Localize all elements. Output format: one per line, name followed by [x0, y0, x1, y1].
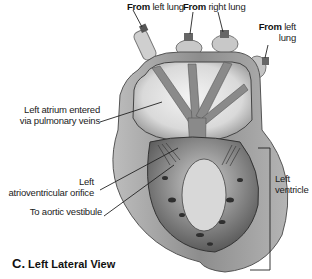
label-line1: Left: [79, 176, 94, 187]
label-from-left-lung-2: From left lung: [246, 21, 296, 43]
label-line1: Left: [275, 173, 290, 184]
panel-title: Left Lateral View: [28, 258, 115, 270]
label-from-right-lung: From right lung: [183, 1, 245, 12]
label-line1: To aortic vestibule: [30, 206, 102, 217]
label-line2: via pulmonary veins: [20, 115, 100, 126]
panel-letter: C.: [12, 256, 25, 271]
label-bold-from: From: [127, 1, 150, 12]
label-bold-from: From: [183, 1, 206, 12]
label-text: right lung: [206, 1, 246, 12]
label-aortic-vestibule: To aortic vestibule: [2, 206, 102, 217]
label-from-left-lung-1: From left lung: [127, 1, 184, 12]
label-line2: atrioventricular orifice: [9, 187, 94, 198]
label-left-atrium: Left atrium entered via pulmonary veins: [4, 104, 100, 126]
label-left-ventricle: Left ventricle: [275, 173, 309, 195]
figure-caption: C. Left Lateral View: [12, 256, 115, 271]
label-text: left lung: [150, 1, 184, 12]
label-line1: Left atrium entered: [24, 104, 100, 115]
label-line2: ventricle: [275, 184, 309, 195]
label-av-orifice: Left atrioventricular orifice: [0, 176, 94, 198]
label-text: left: [282, 21, 296, 32]
aortic-vestibule-region: [182, 159, 226, 231]
label-bold-from: From: [259, 21, 282, 32]
label-text-line2: lung: [279, 32, 296, 43]
